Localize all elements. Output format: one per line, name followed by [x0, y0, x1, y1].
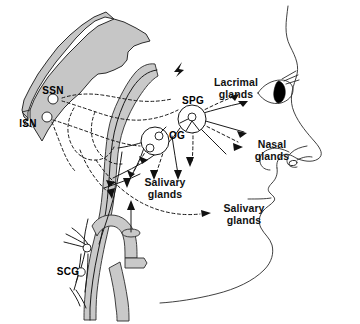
parasympathetic-fibres-group: [50, 94, 238, 215]
label-spg: SPG: [182, 95, 204, 106]
spg-inner-node: [188, 113, 196, 121]
label-salivary-glands-lower-line1: Salivary: [223, 202, 264, 214]
diagram-canvas: SSN ISN SPG OG SCG Lacrimal glands Nasal…: [0, 0, 360, 324]
carotid-external-branch-stub: [125, 258, 147, 268]
label-scg: SCG: [57, 266, 80, 277]
label-salivary-glands-upper-line2: glands: [148, 188, 182, 200]
arrow-salivary-upper: [123, 178, 131, 188]
ssn-efferent-dashed: [62, 94, 172, 101]
label-nasal-glands-line2: glands: [255, 150, 289, 162]
sympathetic-trunk-upper: [84, 219, 88, 244]
carotid-lower-trunk: [109, 262, 129, 321]
scg-fan-lower: [70, 288, 86, 308]
arrow-spg-down-a: [186, 157, 194, 167]
arrow-nasal-solid: [237, 131, 247, 138]
label-lacrimal-glands-line2: glands: [219, 88, 253, 100]
og-inner-node-upper: [155, 132, 163, 140]
isn-nucleus-circle: [42, 112, 52, 122]
anatomical-diagram-figure: SSN ISN SPG OG SCG Lacrimal glands Nasal…: [0, 0, 360, 324]
eyelash-1: [282, 71, 296, 79]
pupil: [274, 81, 286, 103]
label-salivary-glands-upper-line1: Salivary: [144, 176, 185, 188]
nostril-opening: [289, 160, 298, 167]
label-og: OG: [169, 130, 185, 141]
isn-to-og-dashed: [53, 120, 140, 146]
label-isn: ISN: [19, 118, 37, 129]
face-profile-group: [160, 6, 321, 303]
arrow-top-carotid: [174, 62, 184, 77]
og-efferent-solid: [172, 136, 178, 174]
og-ganglion-circle: [141, 127, 169, 155]
spg-efferent-mid-solid: [202, 120, 244, 132]
arrow-salivary-lower-dashed: [201, 210, 211, 217]
label-lacrimal-glands-line1: Lacrimal: [214, 76, 258, 88]
mouth-line: [248, 198, 271, 199]
spg-to-nasal-dashed: [202, 124, 238, 142]
scg-node-upper: [83, 244, 91, 252]
brainstem-group: [22, 12, 150, 141]
isn-descending-dashed: [50, 117, 76, 172]
spg-efferent-lower-solid: [199, 127, 226, 154]
arrow-nasal-dashed: [233, 143, 243, 151]
label-ssn: SSN: [42, 85, 63, 96]
og-inner-node-lower: [146, 144, 154, 152]
label-salivary-glands-lower-line2: glands: [227, 214, 261, 226]
label-nasal-glands-line1: Nasal: [258, 138, 287, 150]
eye-group: [258, 71, 299, 104]
